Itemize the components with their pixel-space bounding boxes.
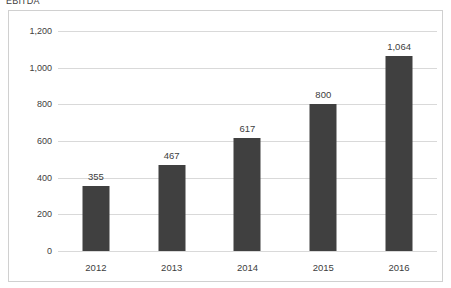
bar-group-2016: 1,0642016 [361,31,437,251]
chart-frame: 02004006008001,0001,20035520124672013617… [8,10,443,282]
bar-group-2014: 6172014 [210,31,286,251]
x-axis-tick-label-2015: 2015 [313,262,334,273]
bar-2015[interactable] [310,104,337,251]
y-axis-tick-label: 800 [37,99,52,109]
x-axis-tick-label-2016: 2016 [389,262,410,273]
bar-2014[interactable] [234,138,261,251]
chart-title: EBITDA [6,0,40,6]
y-axis-tick-label: 1,200 [29,26,52,36]
bar-group-2012: 3552012 [58,31,134,251]
bar-group-2015: 8002015 [285,31,361,251]
x-axis-tick-label-2012: 2012 [85,262,106,273]
bar-value-label-2014: 617 [240,123,256,134]
x-axis-tick-label-2014: 2014 [237,262,258,273]
y-axis-tick-label: 0 [47,246,52,256]
y-axis-tick-label: 1,000 [29,63,52,73]
gridline-0 [58,251,437,252]
y-axis-tick-label: 200 [37,209,52,219]
y-axis-tick-label: 400 [37,173,52,183]
bar-value-label-2012: 355 [88,171,104,182]
y-axis-tick-label: 600 [37,136,52,146]
bar-group-2013: 4672013 [134,31,210,251]
bar-value-label-2016: 1,064 [387,41,411,52]
bar-value-label-2015: 800 [315,89,331,100]
bar-2013[interactable] [158,165,185,251]
bar-2016[interactable] [386,56,413,251]
bar-value-label-2013: 467 [164,150,180,161]
x-axis-tick-label-2013: 2013 [161,262,182,273]
bar-2012[interactable] [82,186,109,251]
plot-area: 02004006008001,0001,20035520124672013617… [58,31,437,251]
